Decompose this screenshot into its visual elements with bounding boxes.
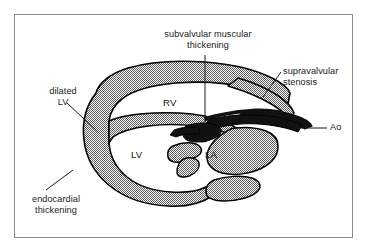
figure-root: subvalvular muscular thickening supraval… [0,0,367,251]
annotation-endocardial-line1: endocardial [13,194,99,205]
annotation-supravalvular-line1: supravalvular [283,66,363,77]
annotation-subvalvular-line1: subvalvular muscular [148,29,268,40]
annotation-endocardial-thickening: endocardial thickening [13,194,99,215]
annotation-aorta: Ao [330,122,341,133]
annotation-subvalvular-muscular-thickening: subvalvular muscular thickening [148,29,268,50]
annotation-supravalvular-line2: stenosis [283,77,363,88]
annotation-dilated-line2: LV [33,97,93,108]
posterior-vessel-cut [206,176,260,201]
chamber-label-rv: RV [163,97,177,108]
chamber-label-la: LA [205,149,217,160]
annotation-dilated-line1: dilated [33,86,93,97]
annotation-endocardial-line2: thickening [13,205,99,216]
leader-endocardial [46,170,73,190]
annotation-dilated-lv: dilated LV [33,86,93,107]
annotation-supravalvular-stenosis: supravalvular stenosis [283,66,363,87]
chamber-label-lv: LV [131,149,142,160]
annotation-subvalvular-line2: thickening [148,40,268,51]
